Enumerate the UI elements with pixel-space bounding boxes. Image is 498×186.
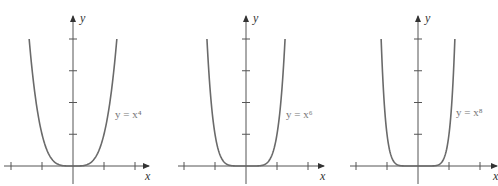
x-axis-label: x — [144, 169, 151, 183]
equation-label: y = x⁸ — [456, 106, 483, 118]
equation-label: y = x⁶ — [286, 108, 313, 120]
x-axis-label: x — [492, 169, 498, 183]
chart-x4: yxy = x⁴ — [4, 11, 151, 184]
chart-x6: yxy = x⁶ — [178, 11, 326, 184]
equation-label: y = x⁴ — [115, 108, 142, 120]
x-axis-label: x — [319, 169, 326, 183]
chart-x8: yxy = x⁸ — [350, 11, 498, 184]
y-axis-label: y — [424, 11, 431, 25]
power-function-charts: yxy = x⁴ yxy = x⁶ yxy = x⁸ — [0, 0, 498, 186]
y-axis-label: y — [79, 11, 86, 25]
y-axis-label: y — [252, 11, 259, 25]
